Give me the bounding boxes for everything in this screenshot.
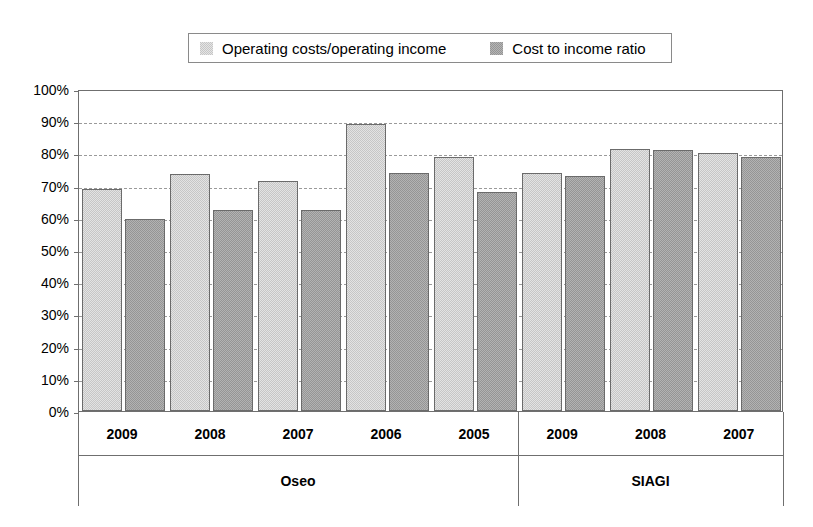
bar-cost-to-income-ratio-2009-5 — [565, 176, 605, 411]
x-axis-year-label-2007-2: 2007 — [254, 412, 342, 455]
y-axis-tick-label: 90% — [5, 115, 69, 129]
y-axis-tick-label: 80% — [5, 147, 69, 161]
x-axis-year-label-2008-1: 2008 — [166, 412, 254, 455]
y-axis-tick-label: 50% — [5, 244, 69, 258]
y-axis-tick-label: 20% — [5, 341, 69, 355]
y-axis-tick-label: 70% — [5, 180, 69, 194]
bar-operating-costs-operating-income-2009-5 — [522, 173, 562, 411]
y-axis-tick-label: 0% — [5, 405, 69, 419]
legend-entry-operating-costs: Operating costs/operating income — [200, 34, 446, 62]
y-axis-tick-label: 10% — [5, 373, 69, 387]
x-axis-group-label-siagi: SIAGI — [518, 455, 783, 506]
legend-entry-cost-to-income: Cost to income ratio — [490, 34, 645, 62]
bar-operating-costs-operating-income-2009-0 — [82, 189, 122, 411]
bar-cost-to-income-ratio-2008-6 — [653, 150, 693, 411]
bar-cost-to-income-ratio-2006-3 — [389, 173, 429, 411]
bar-cost-to-income-ratio-2007-7 — [741, 157, 781, 411]
legend-swatch-dark-gray-icon — [490, 42, 503, 55]
y-axis-tick-label: 40% — [5, 276, 69, 290]
x-axis-year-label-2005-4: 2005 — [430, 412, 518, 455]
bar-cost-to-income-ratio-2005-4 — [477, 192, 517, 411]
chart-legend: Operating costs/operating income Cost to… — [188, 33, 672, 63]
legend-swatch-light-gray-icon — [200, 42, 213, 55]
x-axis-year-label-2009-5: 2009 — [518, 412, 606, 455]
y-axis-tick-label: 100% — [5, 83, 69, 97]
y-axis-tick-label: 60% — [5, 212, 69, 226]
bar-operating-costs-operating-income-2006-3 — [346, 124, 386, 411]
bar-cost-to-income-ratio-2007-2 — [301, 210, 341, 411]
legend-label-cost-to-income: Cost to income ratio — [512, 41, 645, 56]
bar-operating-costs-operating-income-2007-2 — [258, 181, 298, 411]
bar-operating-costs-operating-income-2008-6 — [610, 149, 650, 411]
chart-bars — [79, 91, 782, 411]
chart-category-axis: 20092008200720062005200920082007OseoSIAG… — [78, 412, 783, 506]
x-axis-year-label-2006-3: 2006 — [342, 412, 430, 455]
bar-cost-to-income-ratio-2008-1 — [213, 210, 253, 411]
bar-operating-costs-operating-income-2005-4 — [434, 157, 474, 411]
category-axis-border — [783, 412, 784, 506]
y-axis-tick-label: 30% — [5, 308, 69, 322]
bar-operating-costs-operating-income-2007-7 — [698, 153, 738, 411]
x-axis-group-label-oseo: Oseo — [78, 455, 518, 506]
bar-cost-to-income-ratio-2009-0 — [125, 219, 165, 411]
x-axis-year-label-2007-7: 2007 — [695, 412, 783, 455]
bar-operating-costs-operating-income-2008-1 — [170, 174, 210, 411]
legend-label-operating-costs: Operating costs/operating income — [222, 41, 446, 56]
x-axis-year-label-2009-0: 2009 — [78, 412, 166, 455]
chart-plot-area — [78, 90, 783, 412]
x-axis-year-label-2008-6: 2008 — [606, 412, 694, 455]
